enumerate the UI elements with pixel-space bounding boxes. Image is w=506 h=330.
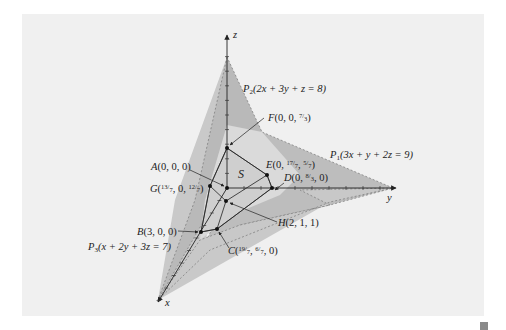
plane-label-p3: P3(x + 2y + 3z = 7) xyxy=(87,241,172,254)
label-h: H(2, 1, 1) xyxy=(277,217,319,229)
point-e xyxy=(265,173,269,177)
plane-label-p1: P1(3x + y + 2z = 9) xyxy=(329,149,414,162)
label-a: A(0, 0, 0) xyxy=(150,161,191,173)
label-c: C(19/7, 6/7, 0) xyxy=(228,245,278,257)
region-label-s: S xyxy=(238,167,244,181)
x-axis-label: x xyxy=(164,297,170,308)
point-d xyxy=(270,186,274,190)
point-f xyxy=(225,146,229,150)
y-axis-label: y xyxy=(386,192,392,203)
point-b xyxy=(199,230,203,234)
point-a xyxy=(225,186,229,190)
point-h xyxy=(224,199,228,203)
point-g xyxy=(208,184,212,188)
label-f: F(0, 0, 7/3) xyxy=(267,112,311,124)
end-of-proof-mark xyxy=(480,322,488,330)
diagram: z y x S P2(2x + 3y + z = 8) P1(3x + y + … xyxy=(0,0,506,330)
label-b: B(3, 0, 0) xyxy=(137,226,177,238)
plane-label-p2: P2(2x + 3y + z = 8) xyxy=(242,83,327,96)
z-axis-label: z xyxy=(232,29,237,40)
point-c xyxy=(215,227,219,231)
